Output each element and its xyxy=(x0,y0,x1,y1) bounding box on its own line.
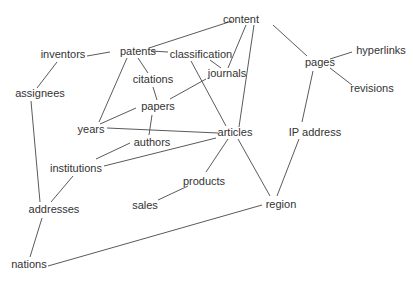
edge-addresses-nations xyxy=(30,218,42,257)
edge-citations-papers xyxy=(153,87,157,100)
graph-canvas: contentinventorspatentsclassificationjou… xyxy=(0,0,413,282)
node-inventors: inventors xyxy=(41,48,86,60)
node-sales: sales xyxy=(132,199,158,211)
edge-inventors-patents xyxy=(87,52,110,56)
edge-papers-years xyxy=(100,108,136,124)
node-region: region xyxy=(266,198,297,210)
node-ip-address: IP address xyxy=(289,126,342,138)
edge-ip_address-region xyxy=(277,139,299,196)
node-assignees: assignees xyxy=(15,87,65,99)
edge-institutions-addresses xyxy=(51,176,73,202)
node-institutions: institutions xyxy=(50,162,102,174)
node-authors: authors xyxy=(134,136,171,148)
edge-journals-papers xyxy=(170,79,206,99)
edge-pages-revisions xyxy=(330,68,352,85)
node-pages: pages xyxy=(305,56,335,68)
edge-products-sales xyxy=(158,186,188,200)
edge-pages-ip_address xyxy=(302,71,313,122)
edge-papers-authors xyxy=(149,115,152,135)
node-classification: classification xyxy=(170,48,232,60)
edge-patents-years xyxy=(99,58,127,122)
node-papers: papers xyxy=(141,100,175,112)
node-years: years xyxy=(78,123,105,135)
node-journals: journals xyxy=(207,67,247,79)
edge-articles-region xyxy=(238,139,270,196)
node-layer: contentinventorspatentsclassificationjou… xyxy=(11,13,406,270)
node-hyperlinks: hyperlinks xyxy=(356,44,406,56)
edge-years-articles xyxy=(107,128,218,133)
node-revisions: revisions xyxy=(350,82,394,94)
edge-authors-institutions xyxy=(96,143,130,159)
node-citations: citations xyxy=(133,73,174,85)
edge-assignees-addresses xyxy=(31,101,40,202)
node-products: products xyxy=(183,175,226,187)
edge-content-patents xyxy=(149,21,232,48)
node-nations: nations xyxy=(11,258,47,270)
edge-content-pages xyxy=(273,25,307,56)
concept-graph-diagram: contentinventorspatentsclassificationjou… xyxy=(0,0,413,282)
edge-nations-region xyxy=(48,205,262,266)
node-patents: patents xyxy=(120,45,157,57)
edge-articles-products xyxy=(206,139,228,172)
node-content: content xyxy=(223,13,259,25)
node-articles: articles xyxy=(218,126,253,138)
edge-content-journals xyxy=(228,25,246,68)
node-addresses: addresses xyxy=(29,203,80,215)
edge-patents-citations xyxy=(138,58,148,73)
edge-inventors-assignees xyxy=(37,62,57,88)
